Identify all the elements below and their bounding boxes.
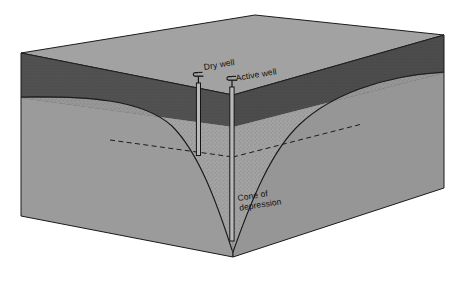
dry-well-casing [196,83,200,156]
block-diagram-svg [0,0,465,281]
figure-root: Dry well Active well Cone of depression [0,0,465,281]
active-well-casing [230,87,234,241]
